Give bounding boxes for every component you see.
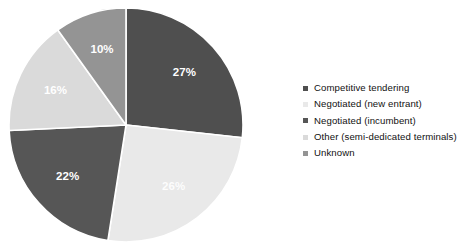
chart-legend: Competitive tendering Negotiated (new en… xyxy=(303,80,459,161)
legend-item-label: Other (semi-dedicated terminals) xyxy=(314,132,457,142)
legend-item-label: Negotiated (new entrant) xyxy=(314,99,422,109)
legend-item-competitive-tendering[interactable]: Competitive tendering xyxy=(303,80,459,96)
legend-item-negotiated-new-entrant[interactable]: Negotiated (new entrant) xyxy=(303,96,459,112)
legend-swatch-icon xyxy=(303,151,308,156)
legend-item-label: Unknown xyxy=(314,148,355,158)
legend-item-label: Negotiated (incumbent) xyxy=(314,116,416,126)
pie-slice-label-22: 22% xyxy=(56,170,79,182)
legend-item-label: Competitive tendering xyxy=(314,83,409,93)
pie-slice-label-16: 16% xyxy=(44,84,67,96)
pie-slice-negotiated-incumbent[interactable] xyxy=(9,125,126,241)
legend-item-other-semi-dedicated-terminals[interactable]: Other (semi-dedicated terminals) xyxy=(303,129,459,145)
legend-item-unknown[interactable]: Unknown xyxy=(303,145,459,161)
legend-swatch-icon xyxy=(303,118,308,123)
pie-chart-graphic: 27% 26% 22% 16% 10% xyxy=(9,6,243,244)
pie-slice-label-26: 26% xyxy=(162,180,185,192)
pie-chart-figure: 27% 26% 22% 16% 10% Competitive tenderin… xyxy=(0,0,461,251)
pie-slice-label-27: 27% xyxy=(173,66,196,78)
pie-svg: 27% 26% 22% 16% 10% xyxy=(9,6,243,244)
legend-swatch-icon xyxy=(303,86,308,91)
pie-slices xyxy=(9,8,243,242)
legend-item-negotiated-incumbent[interactable]: Negotiated (incumbent) xyxy=(303,112,459,128)
pie-slice-label-10: 10% xyxy=(90,43,113,55)
legend-swatch-icon xyxy=(303,102,308,107)
legend-swatch-icon xyxy=(303,135,308,140)
